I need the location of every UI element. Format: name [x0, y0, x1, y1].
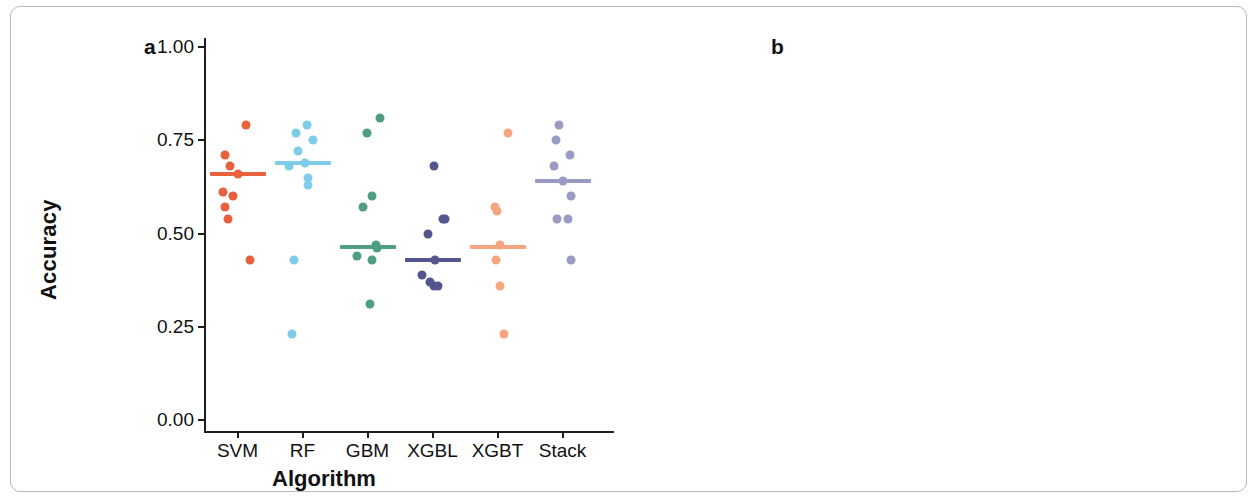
x-tick-label-svm: SVM	[217, 440, 258, 462]
panel-b: b Accuracy Algorithm 0.000.250.500.751.0…	[628, 0, 1256, 498]
data-point	[375, 113, 384, 122]
data-point	[302, 121, 311, 130]
median-bar	[340, 245, 396, 249]
data-point	[491, 255, 500, 264]
x-tick-label-xgbt: XGBT	[472, 440, 524, 462]
median-bar	[470, 245, 526, 249]
x-tick-mark	[367, 431, 369, 438]
data-point	[430, 162, 439, 171]
y-tick-label: 1.00	[146, 36, 194, 58]
x-tick-label-rf: RF	[290, 440, 315, 462]
data-point	[294, 147, 303, 156]
data-point	[229, 192, 238, 201]
x-tick-mark	[562, 431, 564, 438]
data-point	[418, 270, 427, 279]
panel-b-tag: b	[771, 36, 784, 57]
data-point	[492, 207, 501, 216]
data-point	[226, 162, 235, 171]
y-tick-mark	[198, 419, 205, 421]
data-point	[565, 151, 574, 160]
median-bar	[405, 258, 461, 262]
data-point	[555, 121, 564, 130]
data-point	[434, 281, 443, 290]
y-tick-mark	[198, 139, 205, 141]
data-point	[353, 251, 362, 260]
y-tick-mark	[198, 46, 205, 48]
data-point	[223, 214, 232, 223]
x-tick-label-gbm: GBM	[346, 440, 389, 462]
data-point	[221, 151, 230, 160]
data-point	[552, 136, 561, 145]
data-point	[289, 255, 298, 264]
data-point	[499, 330, 508, 339]
data-point	[288, 330, 297, 339]
data-point	[552, 214, 561, 223]
x-tick-mark	[432, 431, 434, 438]
data-point	[368, 192, 377, 201]
panel-a: a Accuracy Algorithm 0.000.250.500.751.0…	[0, 0, 628, 498]
x-tick-label-xgbl: XGBL	[407, 440, 458, 462]
data-point	[308, 136, 317, 145]
data-point	[245, 255, 254, 264]
y-tick-mark	[198, 326, 205, 328]
panel-a-y-axis-title: Accuracy	[36, 199, 62, 300]
data-point	[441, 214, 450, 223]
panel-a-x-axis-title: Algorithm	[272, 466, 376, 492]
data-point	[362, 128, 371, 137]
y-tick-label: 0.25	[146, 316, 194, 338]
median-bar	[210, 172, 266, 176]
data-point	[218, 188, 227, 197]
data-point	[495, 281, 504, 290]
data-point	[566, 192, 575, 201]
data-point	[423, 229, 432, 238]
y-tick-label: 0.75	[146, 129, 194, 151]
x-tick-mark	[497, 431, 499, 438]
data-point	[365, 300, 374, 309]
data-point	[304, 181, 313, 190]
data-point	[359, 203, 368, 212]
data-point	[221, 203, 230, 212]
panel-a-plot-area	[205, 40, 595, 425]
data-point	[292, 128, 301, 137]
median-bar	[535, 179, 591, 183]
data-point	[242, 121, 251, 130]
data-point	[549, 162, 558, 171]
y-tick-mark	[198, 233, 205, 235]
data-point	[503, 128, 512, 137]
panel-a-x-axis-line	[204, 431, 614, 433]
x-tick-mark	[302, 431, 304, 438]
x-tick-mark	[237, 431, 239, 438]
x-tick-label-stack: Stack	[539, 440, 587, 462]
y-tick-label: 0.50	[146, 223, 194, 245]
data-point	[367, 255, 376, 264]
data-point	[564, 214, 573, 223]
y-tick-label: 0.00	[146, 409, 194, 431]
data-point	[567, 255, 576, 264]
figure-container: a Accuracy Algorithm 0.000.250.500.751.0…	[0, 0, 1257, 498]
median-bar	[275, 161, 331, 165]
